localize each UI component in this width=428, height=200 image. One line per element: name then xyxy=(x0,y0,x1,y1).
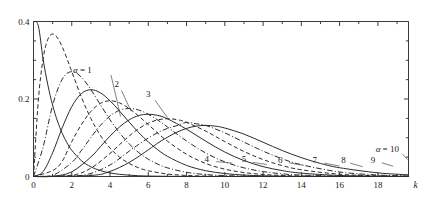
curve-label-alpha-7: 7 xyxy=(313,155,318,165)
curve-label-alpha-1: α= 1 xyxy=(73,65,92,75)
x-tick-label: 8 xyxy=(184,180,189,190)
curve-label-alpha-8: 8 xyxy=(341,155,346,165)
curve-label-alpha-5: 5 xyxy=(242,154,247,164)
y-tick-label: 0.4 xyxy=(18,17,30,27)
erlang-pdf-chart: α= 123456789α= 10 02468101214161800.20.4… xyxy=(0,0,428,200)
curve-alpha-2 xyxy=(34,34,409,177)
x-tick-label: 16 xyxy=(335,180,345,190)
plot-frame xyxy=(34,22,409,177)
curve-label-alpha-6: 6 xyxy=(278,155,283,165)
leader-line-alpha-8 xyxy=(350,163,362,166)
leader-line-alpha-9 xyxy=(382,163,393,166)
curve-label-alpha-2: 2 xyxy=(114,79,119,89)
y-tick-label: 0.2 xyxy=(18,94,29,104)
x-tick-label: 18 xyxy=(373,180,383,190)
curve-label-alpha-4: 4 xyxy=(204,154,209,164)
x-axis-title: k xyxy=(413,180,418,190)
curve-label-alpha-9: 9 xyxy=(371,155,376,165)
axis-ticks xyxy=(34,22,409,177)
axis-frame xyxy=(34,22,409,177)
curve-alpha-5 xyxy=(34,101,409,177)
x-tick-label: 14 xyxy=(297,180,307,190)
x-tick-label: 2 xyxy=(70,180,75,190)
x-axis-title-label: k xyxy=(413,180,418,190)
curve-label-alpha-3: 3 xyxy=(146,89,151,99)
curve-alpha-7 xyxy=(34,114,409,176)
x-tick-label: 0 xyxy=(31,180,36,190)
curve-series-group xyxy=(34,21,409,176)
curve-alpha-1 xyxy=(34,21,409,176)
y-tick-label: 0 xyxy=(25,172,30,182)
x-tick-label: 10 xyxy=(220,180,230,190)
x-tick-label: 4 xyxy=(108,180,113,190)
figure-container: α= 123456789α= 10 02468101214161800.20.4… xyxy=(0,0,428,200)
x-tick-label: 12 xyxy=(259,180,268,190)
curve-label-alpha-10: α= 10 xyxy=(376,144,400,154)
x-tick-label: 6 xyxy=(146,180,151,190)
curve-labels: α= 123456789α= 10 xyxy=(73,65,399,165)
